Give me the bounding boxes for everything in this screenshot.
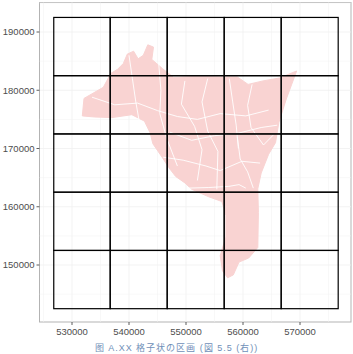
x-axis: 530000540000550000560000570000 [56, 322, 316, 337]
x-tick-label: 560000 [227, 326, 259, 337]
x-tick-label: 550000 [170, 326, 202, 337]
y-tick-label: 170000 [3, 143, 35, 154]
y-tick-label: 150000 [3, 259, 35, 270]
y-tick-label: 160000 [3, 201, 35, 212]
y-axis: 150000160000170000180000190000 [3, 26, 40, 270]
y-tick-label: 190000 [3, 26, 35, 37]
x-tick-label: 530000 [56, 326, 88, 337]
figure-caption: 图 A.XX 格子状の区画 (図 5.5 (右)) [0, 341, 353, 354]
y-tick-label: 180000 [3, 85, 35, 96]
x-tick-label: 570000 [284, 326, 316, 337]
x-tick-label: 540000 [113, 326, 145, 337]
